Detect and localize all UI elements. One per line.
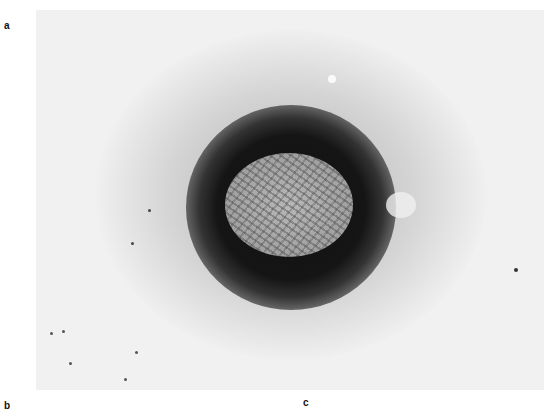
debris-dot [514, 268, 518, 272]
virus-particle [225, 153, 353, 257]
panel-label-c: c [303, 397, 309, 408]
light-artifact [386, 192, 416, 218]
micrograph-image [36, 10, 544, 390]
panel-label-b: b [4, 400, 10, 411]
debris-dot [135, 351, 138, 354]
debris-dot [50, 332, 53, 335]
debris-dot [131, 242, 134, 245]
debris-dot [124, 378, 127, 381]
panel-label-a: a [4, 20, 10, 31]
debris-dot [69, 362, 72, 365]
light-artifact [328, 75, 336, 83]
debris-dot [62, 330, 65, 333]
debris-dot [148, 209, 151, 212]
